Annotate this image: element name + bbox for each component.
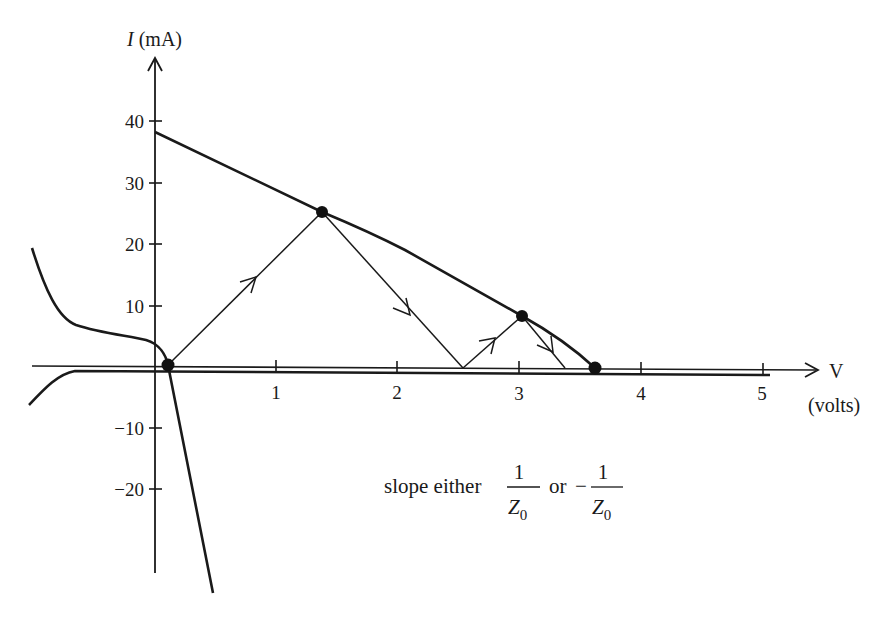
x-axis-symbol: V bbox=[829, 360, 844, 382]
y-axis-symbol: I bbox=[126, 28, 135, 50]
y-tick-label: 20 bbox=[125, 234, 144, 255]
operating-points bbox=[162, 206, 602, 375]
operating-point bbox=[162, 359, 175, 372]
y-tick-label: −20 bbox=[114, 479, 144, 500]
y-tick-label: 10 bbox=[125, 296, 144, 317]
slope-annotation: slope either 1 Z0 or − 1 Z0 bbox=[384, 460, 623, 523]
x-tick-label: 4 bbox=[636, 383, 646, 404]
direction-arrows bbox=[240, 277, 553, 354]
load-curve bbox=[155, 132, 595, 368]
x-tick-label: 3 bbox=[514, 383, 524, 404]
operating-point bbox=[316, 206, 328, 218]
bounce-path bbox=[168, 212, 565, 368]
fraction-numerator: 1 bbox=[514, 460, 525, 484]
iv-bounce-diagram: 40 30 20 10 −10 −20 I(mA) 1 2 3 4 5 V (v… bbox=[0, 0, 893, 622]
fraction-numerator: 1 bbox=[598, 460, 609, 484]
y-tick-labels: 40 30 20 10 −10 −20 bbox=[114, 111, 144, 500]
operating-point bbox=[589, 362, 602, 375]
annotation-prefix: slope either bbox=[384, 474, 481, 498]
y-axis-title: I(mA) bbox=[126, 28, 182, 51]
annotation-connector: or bbox=[549, 474, 567, 498]
x-tick-label: 5 bbox=[757, 383, 767, 404]
x-tick-label: 2 bbox=[392, 382, 402, 403]
y-tick-label: 40 bbox=[125, 111, 144, 132]
x-axis-unit: (volts) bbox=[808, 394, 860, 417]
fraction-denominator: Z0 bbox=[508, 495, 527, 523]
x-tick-labels: 1 2 3 4 5 bbox=[271, 382, 767, 404]
fraction-denominator: Z0 bbox=[592, 495, 611, 523]
y-tick-label: −10 bbox=[114, 418, 144, 439]
annotation-minus: − bbox=[575, 474, 587, 498]
operating-point bbox=[516, 310, 528, 322]
y-tick-label: 30 bbox=[125, 173, 144, 194]
x-tick-label: 1 bbox=[271, 382, 281, 403]
y-axis-unit: (mA) bbox=[139, 28, 182, 51]
